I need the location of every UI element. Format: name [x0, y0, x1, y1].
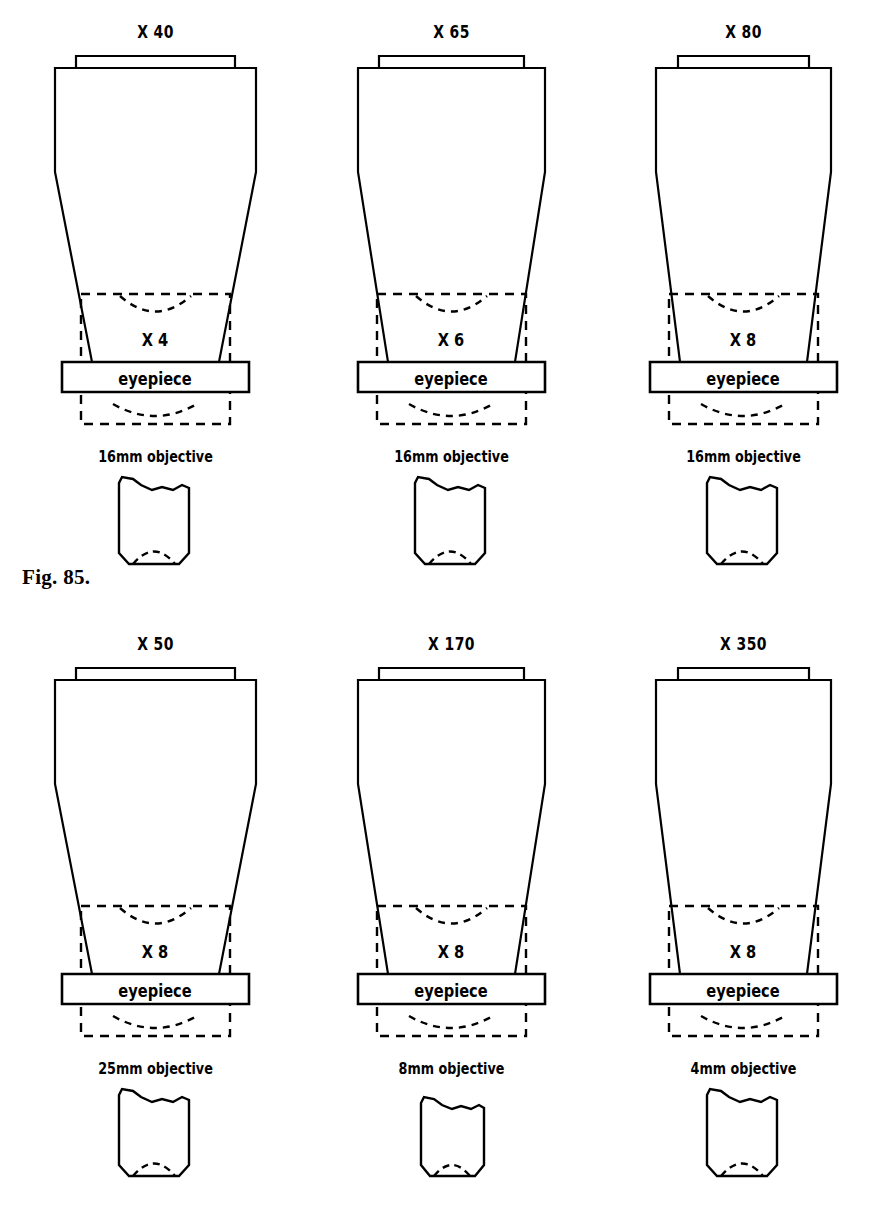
objective-group: 25mm objective [7, 1060, 304, 1192]
objective-shape-wrap [303, 469, 600, 569]
objective-front-lens-arc [721, 1164, 763, 1177]
eyepiece-outline-box [377, 906, 526, 1036]
objective-lens-diagram [303, 1081, 600, 1191]
top-aperture-bar [678, 56, 809, 68]
microscope-unit: X 350 X 8 eyepiece 4mm objective [595, 612, 892, 1223]
microscope-unit: X 40 X 4 eyepiece 16mm objective [7, 0, 304, 612]
objective-label: 16mm objective [325, 448, 577, 466]
objective-shape-wrap [7, 1081, 304, 1181]
top-aperture-bar [76, 56, 235, 68]
objective-shape-wrap [303, 1081, 600, 1181]
figure-86-columns: X 50 X 8 eyepiece 25mm objective [0, 612, 892, 1223]
eyepiece-upper-lens-arc [416, 908, 487, 924]
eyepiece-word-label: eyepiece [706, 981, 779, 1001]
field-of-view-diagram: X 4 eyepiece [7, 44, 304, 434]
eyepiece-lower-lens-arc [701, 404, 785, 416]
eyepiece-lower-lens-arc [113, 1016, 197, 1028]
light-cone-body [358, 68, 545, 374]
objective-front-lens-arc [721, 552, 763, 565]
objective-label: 16mm objective [617, 448, 869, 466]
objective-label: 8mm objective [325, 1060, 577, 1078]
top-aperture-bar [678, 668, 809, 680]
objective-lens-diagram [7, 469, 304, 579]
field-of-view-diagram: X 6 eyepiece [303, 44, 600, 434]
eyepiece-word-label: eyepiece [118, 369, 191, 389]
magnification-label: X 50 [34, 634, 278, 654]
light-cone-body [55, 680, 256, 986]
eyepiece-word-label: eyepiece [706, 369, 779, 389]
eyepiece-upper-lens-arc [708, 908, 779, 924]
magnification-label: X 65 [330, 22, 574, 42]
figure-page: X 40 X 4 eyepiece 16mm objective [0, 0, 892, 1223]
magnification-label: X 350 [622, 634, 866, 654]
magnification-label: X 80 [622, 22, 866, 42]
eyepiece-upper-lens-arc [120, 296, 191, 312]
eyepiece-power-label: X 6 [438, 330, 465, 350]
eyepiece-lower-lens-arc [409, 404, 493, 416]
light-cone-body [55, 68, 256, 374]
figure-caption: Fig. 85. [22, 565, 90, 589]
eyepiece-upper-lens-arc [708, 296, 779, 312]
figure-85-columns: X 40 X 4 eyepiece 16mm objective [0, 0, 892, 612]
eyepiece-power-label: X 8 [438, 942, 465, 962]
eyepiece-outline-box [669, 294, 818, 424]
eyepiece-outline-box [81, 294, 230, 424]
eyepiece-power-label: X 8 [730, 942, 757, 962]
light-cone-body [358, 680, 545, 986]
objective-label: 4mm objective [617, 1060, 869, 1078]
objective-front-lens-arc [133, 1164, 175, 1177]
field-of-view-diagram: X 8 eyepiece [303, 656, 600, 1046]
figure-85-block: X 40 X 4 eyepiece 16mm objective [0, 0, 892, 612]
objective-label: 25mm objective [29, 1060, 281, 1078]
magnification-label: X 170 [330, 634, 574, 654]
objective-group: 16mm objective [7, 448, 304, 580]
magnification-label: X 40 [34, 22, 278, 42]
eyepiece-upper-lens-arc [120, 908, 191, 924]
objective-label: 16mm objective [29, 448, 281, 466]
eyepiece-lower-lens-arc [409, 1016, 493, 1028]
objective-shape-wrap [7, 469, 304, 569]
eyepiece-upper-lens-arc [416, 296, 487, 312]
objective-front-lens-arc [429, 552, 471, 565]
microscope-unit: X 80 X 8 eyepiece 16mm objective [595, 0, 892, 612]
eyepiece-word-label: eyepiece [414, 369, 487, 389]
objective-lens-diagram [7, 1081, 304, 1191]
eyepiece-power-label: X 4 [142, 330, 169, 350]
eyepiece-power-label: X 8 [142, 942, 169, 962]
objective-group: 16mm objective [595, 448, 892, 580]
objective-group: 8mm objective [303, 1060, 600, 1192]
top-aperture-bar [76, 668, 235, 680]
eyepiece-lower-lens-arc [113, 404, 197, 416]
figure-86-block: X 50 X 8 eyepiece 25mm objective [0, 612, 892, 1223]
field-of-view-diagram: X 8 eyepiece [595, 44, 892, 434]
objective-lens-diagram [303, 469, 600, 579]
objective-shape-wrap [595, 469, 892, 569]
field-of-view-diagram: X 8 eyepiece [595, 656, 892, 1046]
eyepiece-lower-lens-arc [701, 1016, 785, 1028]
eyepiece-outline-box [377, 294, 526, 424]
field-of-view-diagram: X 8 eyepiece [7, 656, 304, 1046]
eyepiece-outline-box [81, 906, 230, 1036]
eyepiece-outline-box [669, 906, 818, 1036]
objective-group: 16mm objective [303, 448, 600, 580]
microscope-unit: X 50 X 8 eyepiece 25mm objective [7, 612, 304, 1223]
objective-group: 4mm objective [595, 1060, 892, 1192]
light-cone-body [656, 68, 831, 374]
top-aperture-bar [379, 668, 524, 680]
light-cone-body [656, 680, 831, 986]
eyepiece-word-label: eyepiece [414, 981, 487, 1001]
objective-shape-wrap [595, 1081, 892, 1181]
objective-front-lens-arc [133, 552, 175, 565]
microscope-unit: X 65 X 6 eyepiece 16mm objective [303, 0, 600, 612]
objective-barrel [421, 1097, 484, 1176]
objective-lens-diagram [595, 1081, 892, 1191]
microscope-unit: X 170 X 8 eyepiece 8mm objective [303, 612, 600, 1223]
top-aperture-bar [379, 56, 524, 68]
objective-lens-diagram [595, 469, 892, 579]
objective-front-lens-arc [434, 1165, 470, 1176]
eyepiece-power-label: X 8 [730, 330, 757, 350]
eyepiece-word-label: eyepiece [118, 981, 191, 1001]
